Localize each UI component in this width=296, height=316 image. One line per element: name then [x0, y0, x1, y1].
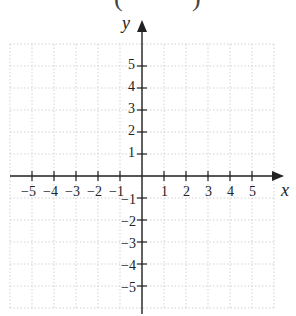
x-tick-label: 5 [249, 184, 256, 199]
x-tick-label: −5 [21, 184, 36, 199]
y-tick-label: −3 [121, 236, 136, 251]
y-axis-label: y [120, 13, 130, 33]
x-axis-label: x [280, 180, 289, 200]
x-tick-label: 1 [161, 184, 168, 199]
y-tick-label: 5 [128, 57, 135, 72]
x-tick-label: 3 [205, 184, 212, 199]
x-tick-label: −2 [87, 184, 102, 199]
y-tick-label: 4 [128, 79, 135, 94]
coordinate-plane: ( ) x y −5 −4 −3 −2 −1 1 2 3 4 5 5 4 3 2… [0, 0, 296, 316]
y-tick-label: 3 [128, 101, 135, 116]
right-paren-fragment: ) [192, 0, 201, 12]
y-tick-label: −2 [121, 214, 136, 229]
x-tick-label: −3 [65, 184, 80, 199]
y-axis-arrow-icon [137, 20, 147, 32]
x-tick-label: −4 [43, 184, 58, 199]
x-tick-label: 2 [183, 184, 190, 199]
y-tick-label: −1 [121, 192, 136, 207]
y-axis [137, 20, 147, 314]
left-paren-fragment: ( [114, 0, 123, 12]
y-tick-label: −5 [121, 280, 136, 295]
x-tick-label: 4 [227, 184, 234, 199]
y-tick-label: 2 [128, 123, 135, 138]
y-tick-label: 1 [128, 145, 135, 160]
x-axis [10, 171, 284, 181]
y-tick-label: −4 [121, 258, 136, 273]
